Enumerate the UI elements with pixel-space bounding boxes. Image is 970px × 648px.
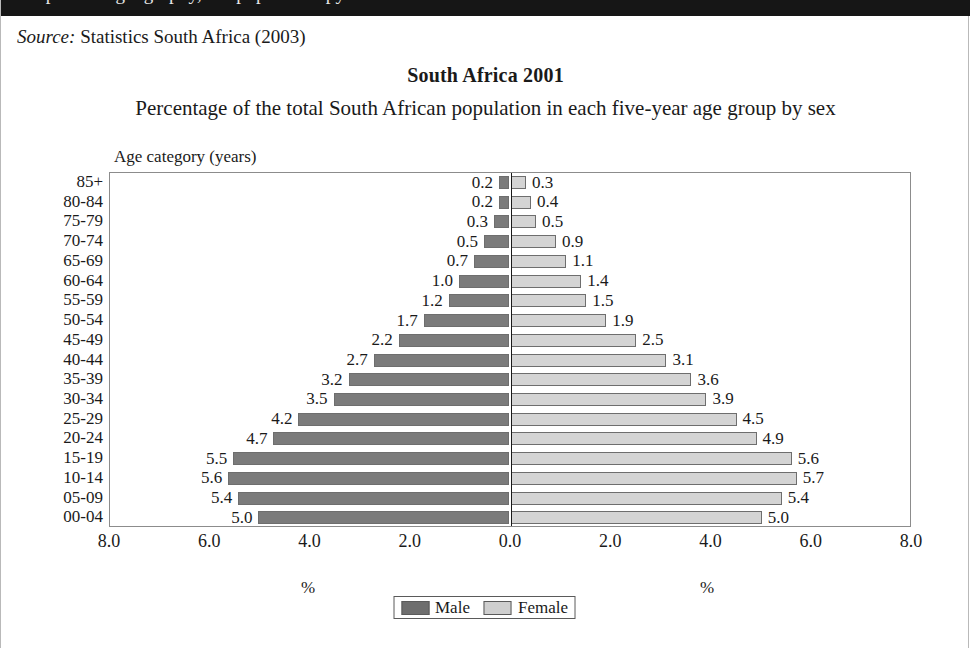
bar-male (374, 354, 509, 367)
bar-value-female: 4.5 (743, 409, 764, 429)
pyramid-row: 0.20.3 (110, 173, 910, 193)
x-axis-tick-label: 8.0 (98, 531, 121, 552)
bar-female (511, 215, 536, 228)
y-axis-tick-label: 45-49 (41, 330, 103, 350)
pyramid-row: 0.71.1 (110, 252, 910, 272)
pyramid-row: 5.45.4 (110, 489, 910, 509)
pyramid-row: 5.05.0 (110, 508, 910, 528)
bar-female (511, 432, 757, 445)
bar-female (511, 294, 586, 307)
chart-legend: Male Female (393, 596, 576, 619)
bar-value-male: 0.5 (457, 232, 478, 252)
bar-value-male: 1.2 (422, 291, 443, 311)
bar-value-female: 2.5 (642, 330, 663, 350)
bar-value-female: 5.4 (788, 488, 809, 508)
bar-male (424, 314, 509, 327)
cropped-header-band: Population geography, the population pyr… (1, 0, 970, 16)
x-axis-tick-labels: 8.06.04.02.00.02.04.06.08.0 (109, 531, 911, 555)
pyramid-row: 4.74.9 (110, 429, 910, 449)
bar-male (459, 275, 509, 288)
bar-female (511, 393, 706, 406)
bar-value-female: 3.1 (672, 350, 693, 370)
bar-female (511, 373, 691, 386)
bar-value-male: 0.3 (467, 212, 488, 232)
bar-value-male: 0.2 (472, 173, 493, 193)
bar-value-female: 5.0 (768, 508, 789, 528)
y-axis-tick-label: 15-19 (41, 448, 103, 468)
y-axis-tick-label: 50-54 (41, 310, 103, 330)
bar-female (511, 314, 606, 327)
bar-male (298, 413, 509, 426)
chart-plot-area: 0.20.30.20.40.30.50.50.90.71.11.01.41.21… (109, 172, 911, 527)
bar-male (273, 432, 509, 445)
bar-value-female: 5.6 (798, 449, 819, 469)
bar-value-female: 3.9 (712, 389, 733, 409)
bar-female (511, 176, 526, 189)
x-axis-tick-label: 2.0 (399, 531, 422, 552)
bar-male (228, 472, 509, 485)
pyramid-row: 0.50.9 (110, 232, 910, 252)
bar-male (449, 294, 509, 307)
bar-male (474, 255, 509, 268)
bar-value-female: 0.3 (532, 173, 553, 193)
y-axis-tick-label: 60-64 (41, 271, 103, 291)
pyramid-row: 4.24.5 (110, 410, 910, 430)
bar-male (334, 393, 509, 406)
y-axis-tick-label: 75-79 (41, 211, 103, 231)
y-axis-tick-label: 55-59 (41, 290, 103, 310)
x-axis-tick-label: 6.0 (800, 531, 823, 552)
y-axis-tick-label: 85+ (41, 172, 103, 192)
y-axis-caption: Age category (years) (114, 147, 257, 167)
bar-female (511, 452, 792, 465)
source-text: Statistics South Africa (2003) (75, 26, 305, 47)
bar-value-male: 1.0 (432, 271, 453, 291)
bar-male (349, 373, 509, 386)
pyramid-row: 1.21.5 (110, 291, 910, 311)
bar-value-female: 5.7 (803, 468, 824, 488)
bar-male (494, 215, 509, 228)
x-axis-tick-label: 2.0 (599, 531, 622, 552)
pyramid-row: 0.20.4 (110, 193, 910, 213)
bar-value-male: 5.0 (231, 508, 252, 528)
percent-label-left: % (301, 578, 315, 598)
y-axis-tick-label: 70-74 (41, 231, 103, 251)
source-line: Source: Statistics South Africa (2003) (17, 26, 305, 48)
pyramid-row: 3.23.6 (110, 370, 910, 390)
bar-female (511, 472, 797, 485)
y-axis-tick-label: 00-04 (41, 507, 103, 527)
bar-value-male: 0.2 (472, 192, 493, 212)
x-axis-tick-label: 6.0 (198, 531, 221, 552)
bar-value-female: 0.5 (542, 212, 563, 232)
center-axis-line (511, 173, 512, 526)
bar-value-female: 0.9 (562, 232, 583, 252)
bar-female (511, 354, 666, 367)
bar-male (233, 452, 509, 465)
y-axis-tick-label: 30-34 (41, 389, 103, 409)
bar-value-female: 1.1 (572, 251, 593, 271)
bar-value-male: 5.4 (211, 488, 232, 508)
bar-value-female: 0.4 (537, 192, 558, 212)
y-axis-tick-label: 35-39 (41, 369, 103, 389)
bar-value-male: 4.7 (246, 429, 267, 449)
pyramid-row: 0.30.5 (110, 212, 910, 232)
bar-value-male: 2.2 (371, 330, 392, 350)
bar-value-female: 4.9 (763, 429, 784, 449)
pyramid-row: 1.71.9 (110, 311, 910, 331)
bar-male (238, 492, 509, 505)
bar-value-male: 5.5 (206, 449, 227, 469)
bar-female (511, 492, 782, 505)
y-axis-tick-labels: 85+80-8475-7970-7465-6960-6455-5950-5445… (41, 172, 103, 527)
legend-label-male: Male (435, 599, 470, 616)
bar-value-male: 1.7 (397, 311, 418, 331)
y-axis-tick-label: 20-24 (41, 428, 103, 448)
bar-value-female: 1.5 (592, 291, 613, 311)
x-axis-tick-label: 0.0 (499, 531, 522, 552)
y-axis-tick-label: 40-44 (41, 350, 103, 370)
percent-label-right: % (700, 578, 714, 598)
bar-male (484, 235, 509, 248)
chart-title: South Africa 2001 (1, 64, 970, 87)
pyramid-row: 5.55.6 (110, 449, 910, 469)
pyramid-row: 2.22.5 (110, 331, 910, 351)
bar-value-male: 0.7 (447, 251, 468, 271)
